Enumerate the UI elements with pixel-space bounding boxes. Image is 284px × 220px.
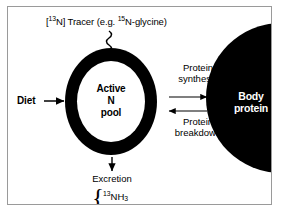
figure-border <box>7 6 272 205</box>
nitrogen-tracer-diagram: Body protein Active N pool [13N] Tracer … <box>0 0 284 220</box>
